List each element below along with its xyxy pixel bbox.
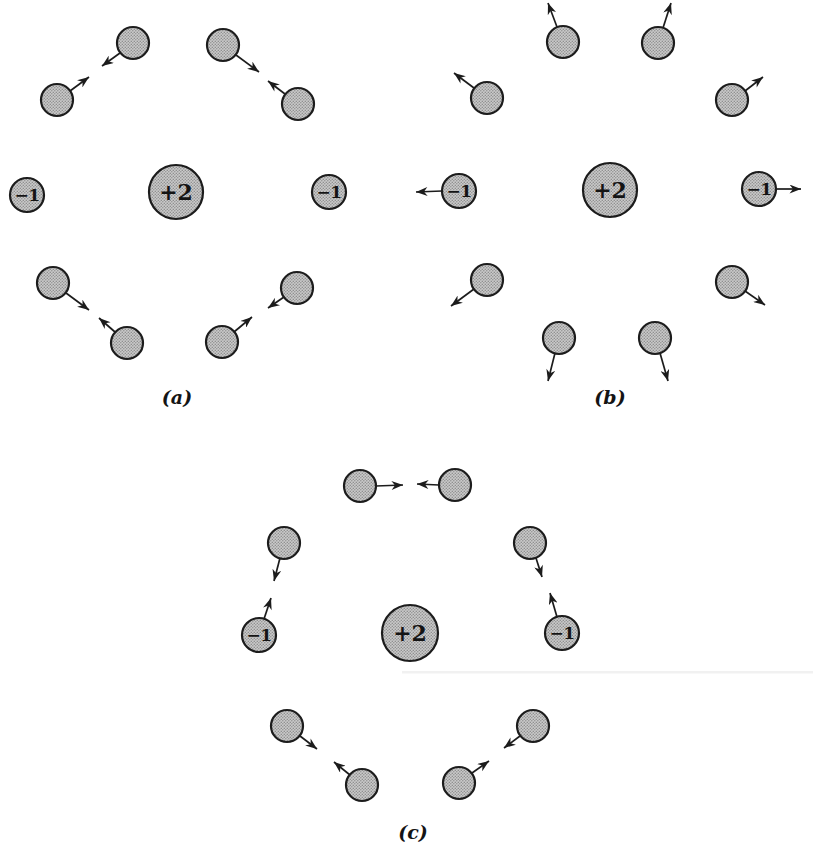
force-arrow (274, 558, 280, 581)
test-charge-circle (639, 322, 671, 354)
force-arrow (472, 761, 489, 773)
test-charge-circle (281, 272, 313, 304)
panel-b: −1 +2 −1 (b) (416, 3, 801, 408)
negative-charge-label: −1 (316, 182, 341, 202)
panel-a: −1 +2 −1 (a) (10, 27, 346, 408)
negative-charge-label: −1 (446, 181, 471, 201)
force-arrow (548, 3, 557, 27)
panel-c: −1 +2 −1 (c) (242, 469, 579, 843)
force-arrow (548, 353, 555, 381)
test-charge-circle (716, 84, 748, 116)
force-arrow (451, 289, 474, 306)
force-arrow (234, 317, 252, 332)
force-arrow (536, 558, 542, 577)
test-charge-circle (547, 26, 579, 58)
scan-artifact-line (402, 671, 813, 674)
force-arrow (334, 762, 350, 775)
test-charge-circle (443, 767, 475, 799)
force-arrow (236, 55, 259, 72)
test-charge-circle (642, 27, 674, 59)
test-charge-circle (117, 27, 149, 59)
positive-charge-label: +2 (593, 177, 627, 203)
test-charge-circle (471, 264, 503, 296)
force-arrow (416, 191, 442, 192)
force-arrow (264, 598, 271, 619)
negative-charge-label: −1 (14, 185, 39, 205)
test-charge-circle (346, 769, 378, 801)
panel-label: (b) (594, 386, 625, 408)
test-charge-circle (271, 710, 303, 742)
test-charge-circle (344, 470, 376, 502)
force-arrow (745, 291, 765, 305)
panel-label: (a) (162, 386, 192, 408)
force-arrow (417, 484, 439, 485)
test-charge-circle (517, 710, 549, 742)
force-arrow (268, 81, 285, 94)
force-arrow (663, 3, 671, 28)
test-charge-circle (37, 267, 69, 299)
test-charge-circle (206, 326, 238, 358)
charge-force-diagram: −1 +2 −1 (a) (0, 0, 813, 862)
force-arrow (376, 485, 403, 486)
force-arrow (504, 736, 520, 748)
test-charge-circle (716, 266, 748, 298)
test-charge-circle (282, 88, 314, 120)
test-charge-circle (41, 84, 73, 116)
force-arrow (102, 53, 120, 66)
negative-charge-label: −1 (246, 625, 271, 645)
test-charge-circle (471, 82, 503, 114)
textbook-figure-page: −1 +2 −1 (a) (0, 0, 813, 862)
force-arrow (70, 77, 89, 91)
positive-charge-label: +2 (393, 620, 427, 646)
test-charge-circle (207, 29, 239, 61)
force-arrow (300, 736, 317, 749)
test-charge-circle (268, 527, 300, 559)
test-charge-circle (439, 469, 471, 501)
force-arrow (745, 77, 763, 91)
positive-charge-label: +2 (159, 179, 193, 205)
force-arrow (454, 73, 474, 88)
force-arrow (550, 593, 557, 617)
test-charge-circle (514, 527, 546, 559)
negative-charge-label: −1 (746, 179, 771, 199)
panel-label: (c) (398, 821, 428, 843)
negative-charge-label: −1 (549, 623, 574, 643)
force-arrow (660, 353, 668, 381)
force-arrow (99, 318, 115, 332)
test-charge-circle (111, 327, 143, 359)
force-arrow (268, 297, 284, 308)
force-arrow (66, 293, 89, 310)
test-charge-circle (543, 322, 575, 354)
